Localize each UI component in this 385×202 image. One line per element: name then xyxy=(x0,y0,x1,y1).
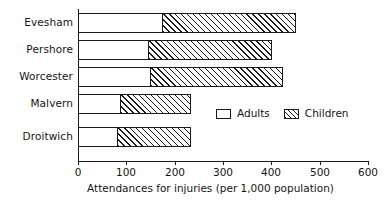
y-axis-label-pershore: Pershore xyxy=(26,44,73,55)
legend-item-children: Children xyxy=(284,108,349,119)
bar-row-droitwich xyxy=(78,127,191,147)
x-tick-200 xyxy=(175,161,176,165)
x-tick-label-400: 400 xyxy=(261,166,281,178)
y-axis-label-worcester: Worcester xyxy=(19,71,73,82)
x-tick-400 xyxy=(271,161,272,165)
legend-swatch-children-icon xyxy=(284,109,299,119)
bar-segment-children xyxy=(117,127,191,147)
bar-segment-adults xyxy=(78,94,121,114)
bar-segment-children xyxy=(148,40,272,60)
bar-segment-children xyxy=(162,13,296,33)
x-tick-label-200: 200 xyxy=(165,166,185,178)
x-tick-label-600: 600 xyxy=(358,166,378,178)
x-tick-label-100: 100 xyxy=(116,166,136,178)
legend-item-adults: Adults xyxy=(216,108,270,119)
bar-segment-adults xyxy=(78,40,149,60)
x-tick-300 xyxy=(223,161,224,165)
y-axis-label-malvern: Malvern xyxy=(30,98,73,109)
x-axis-title: Attendances for injuries (per 1,000 popu… xyxy=(0,182,385,194)
y-axis-label-evesham: Evesham xyxy=(24,17,73,28)
bar-row-evesham xyxy=(78,13,296,33)
bar-segment-children xyxy=(150,67,283,87)
x-tick-100 xyxy=(126,161,127,165)
bar-segment-adults xyxy=(78,127,118,147)
bar-row-malvern xyxy=(78,94,191,114)
legend-swatch-adults-icon xyxy=(216,109,231,119)
bar-segment-children xyxy=(120,94,191,114)
bar-segment-adults xyxy=(78,13,163,33)
y-axis-label-droitwich: Droitwich xyxy=(23,131,73,142)
bar-segment-adults xyxy=(78,67,151,87)
legend: Adults Children xyxy=(216,108,349,119)
x-tick-0 xyxy=(78,161,79,165)
bar-chart: Evesham Pershore Worcester Malvern Droit… xyxy=(0,0,385,202)
x-tick-label-500: 500 xyxy=(310,166,330,178)
x-tick-600 xyxy=(368,161,369,165)
x-tick-label-300: 300 xyxy=(213,166,233,178)
x-tick-500 xyxy=(320,161,321,165)
legend-label-adults: Adults xyxy=(237,108,270,119)
bar-row-pershore xyxy=(78,40,272,60)
bar-row-worcester xyxy=(78,67,283,87)
legend-label-children: Children xyxy=(305,108,349,119)
x-tick-label-0: 0 xyxy=(75,166,82,178)
